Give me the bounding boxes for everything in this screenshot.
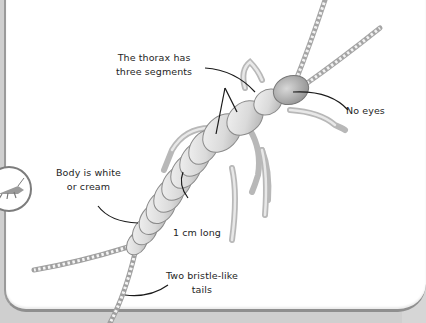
label-thorax: The thorax has three segments	[116, 51, 192, 79]
label-tails-line2: tails	[166, 283, 238, 297]
label-body-color: Body is white or cream	[56, 166, 121, 194]
label-thorax-line1: The thorax has	[116, 51, 192, 65]
label-tails: Two bristle-like tails	[166, 269, 238, 297]
label-no-eyes-text: No eyes	[346, 104, 385, 118]
label-body-line2: or cream	[56, 180, 121, 194]
label-length-text: 1 cm long	[173, 226, 221, 240]
leader-lines	[98, 68, 348, 296]
label-no-eyes: No eyes	[346, 104, 385, 118]
label-thorax-line2: three segments	[116, 65, 192, 79]
label-tails-line1: Two bristle-like	[166, 269, 238, 283]
label-body-line1: Body is white	[56, 166, 121, 180]
label-length: 1 cm long	[173, 226, 221, 240]
